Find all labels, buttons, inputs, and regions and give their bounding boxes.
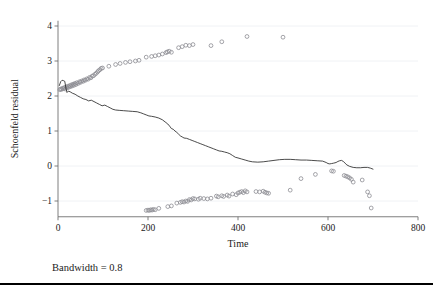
bandwidth-caption: Bandwidth = 0.8	[52, 262, 122, 273]
data-point-marker	[299, 177, 303, 181]
data-point-marker	[351, 180, 355, 184]
bottom-rule	[0, 283, 433, 285]
data-point-marker	[369, 206, 373, 210]
data-point-marker	[107, 64, 111, 68]
x-tick-label: 800	[411, 223, 426, 233]
y-tick-label: 4	[47, 21, 52, 31]
data-point-marker	[150, 55, 154, 59]
gridlines	[58, 26, 418, 201]
x-tick-label: 400	[231, 223, 246, 233]
smoothed-estimate-line	[59, 80, 373, 169]
y-tick-label: 0	[47, 161, 52, 171]
data-point-marker	[368, 194, 372, 198]
data-point-marker	[366, 190, 370, 194]
series-scatter	[58, 35, 285, 92]
data-point-marker	[170, 204, 174, 208]
data-point-marker	[118, 62, 122, 66]
data-point-marker	[166, 205, 170, 209]
y-tick-label: 3	[47, 56, 52, 66]
figure-container: −1012340200400600800 TimeSchoenfeld resi…	[0, 0, 433, 290]
series-smooth-line	[59, 80, 373, 169]
x-tick-label: 600	[321, 223, 336, 233]
data-point-marker	[153, 54, 157, 58]
series-scatter	[144, 169, 373, 212]
y-tick-label: 2	[47, 91, 52, 101]
x-tick-label: 200	[141, 223, 156, 233]
axis-ticks	[55, 26, 419, 220]
y-tick-label: −1	[42, 196, 52, 206]
data-point-marker	[175, 201, 179, 205]
data-point-marker	[209, 44, 213, 48]
data-point-marker	[157, 206, 161, 210]
y-tick-label: 1	[47, 126, 52, 136]
x-axis-title: Time	[228, 238, 249, 249]
data-point-marker	[114, 63, 118, 67]
data-point-marker	[209, 196, 213, 200]
data-point-marker	[191, 43, 195, 47]
data-point-marker	[137, 58, 141, 62]
x-tick-label: 0	[56, 223, 61, 233]
data-point-marker	[245, 35, 249, 39]
data-point-marker	[128, 60, 132, 64]
data-point-marker	[288, 188, 292, 192]
data-point-marker	[220, 40, 224, 44]
axes	[58, 21, 418, 217]
schoenfeld-residual-plot: −1012340200400600800 TimeSchoenfeld resi…	[0, 0, 433, 290]
data-point-marker	[360, 178, 364, 182]
data-point-marker	[231, 192, 235, 196]
data-point-marker	[314, 173, 318, 177]
data-point-marker	[281, 35, 285, 39]
y-axis-title: Schoenfeld residual	[9, 79, 20, 158]
axis-titles: TimeSchoenfeld residual	[9, 79, 249, 249]
data-point-marker	[144, 55, 148, 59]
